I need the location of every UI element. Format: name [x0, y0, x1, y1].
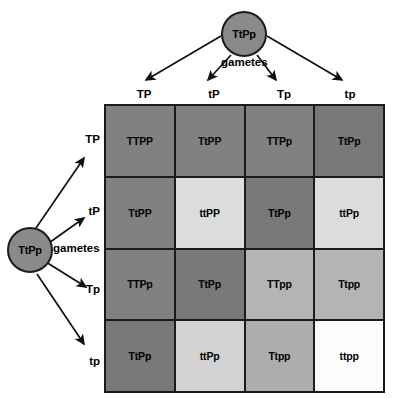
- punnett-cell-r3c0: TtPp: [106, 321, 174, 391]
- column-gamete-label-2: Tp: [249, 88, 319, 100]
- punnett-cell-r0c0: TTPP: [106, 106, 174, 176]
- column-gamete-label-3: tp: [315, 88, 385, 100]
- punnett-cell-r2c2: TTpp: [246, 250, 314, 320]
- punnett-grid: TTPP TtPP TTPp TtPp TtPP ttPP TtPp ttPp …: [104, 104, 385, 393]
- column-gamete-label-1: tP: [179, 88, 249, 100]
- gametes-label-left: gametes: [53, 242, 100, 254]
- column-gamete-label-0: TP: [109, 88, 179, 100]
- punnett-cell-r1c1: ttPP: [176, 178, 244, 248]
- punnett-cell-r1c0: TtPP: [106, 178, 174, 248]
- punnett-square-diagram: TtPp gametes TtPp gametes TP tP Tp tp TP…: [0, 0, 395, 398]
- punnett-cell-r1c3: ttPp: [315, 178, 383, 248]
- gametes-label-top: gametes: [221, 56, 267, 68]
- punnett-cell-r2c3: Ttpp: [315, 250, 383, 320]
- parent-top-circle: TtPp: [221, 11, 267, 57]
- row-gamete-label-3: tp: [66, 355, 100, 367]
- punnett-cell-r2c0: TTPp: [106, 250, 174, 320]
- row-gamete-label-0: TP: [66, 133, 100, 145]
- parent-top-genotype: TtPp: [232, 28, 256, 40]
- punnett-cell-r0c2: TTPp: [246, 106, 314, 176]
- punnett-cell-r2c1: TtPp: [176, 250, 244, 320]
- punnett-cell-r0c1: TtPP: [176, 106, 244, 176]
- punnett-cell-r3c1: ttPp: [176, 321, 244, 391]
- parent-left-circle: TtPp: [7, 227, 53, 273]
- row-gamete-label-1: tP: [66, 205, 100, 217]
- punnett-cell-r3c2: Ttpp: [246, 321, 314, 391]
- punnett-cell-r3c3: ttpp: [315, 321, 383, 391]
- row-gamete-label-2: Tp: [66, 283, 100, 295]
- punnett-cell-r0c3: TtPp: [315, 106, 383, 176]
- punnett-cell-r1c2: TtPp: [246, 178, 314, 248]
- parent-left-genotype: TtPp: [18, 244, 42, 256]
